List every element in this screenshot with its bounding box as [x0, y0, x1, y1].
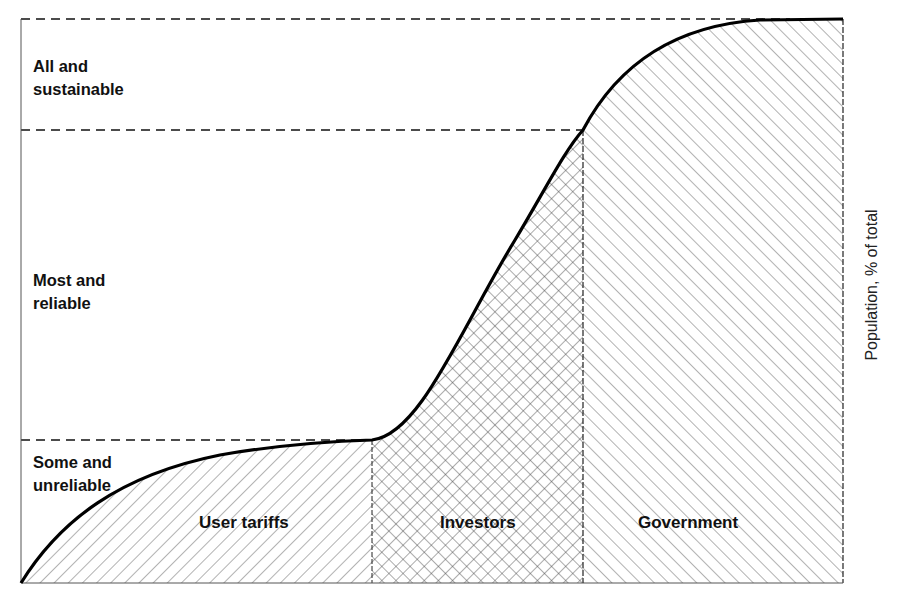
fill-regions — [21, 0, 843, 583]
level-label-most-line2: reliable — [33, 292, 105, 315]
level-label-all-line1: All and — [33, 55, 124, 78]
segment-label-user-tariffs: User tariffs — [199, 513, 289, 533]
level-label-some-line1: Some and — [33, 451, 112, 474]
government-region — [583, 0, 843, 583]
level-label-some-line2: unreliable — [33, 474, 112, 497]
y-axis-label: Population, % of total — [863, 195, 881, 375]
segment-label-government: Government — [638, 513, 738, 533]
level-label-some: Some and unreliable — [33, 451, 112, 497]
level-label-all-line2: sustainable — [33, 78, 124, 101]
investors-region — [372, 0, 583, 583]
diagram-canvas — [0, 0, 900, 600]
level-label-all: All and sustainable — [33, 55, 124, 101]
level-label-most: Most and reliable — [33, 269, 105, 315]
level-label-most-line1: Most and — [33, 269, 105, 292]
segment-label-investors: Investors — [440, 513, 516, 533]
